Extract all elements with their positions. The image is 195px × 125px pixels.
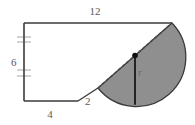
radius-label: r (138, 68, 142, 78)
dimension-label-top: 12 (90, 6, 101, 17)
figure-canvas (0, 0, 195, 125)
dimension-label-bottom: 4 (47, 109, 53, 120)
dimension-label-diagonal: 2 (85, 96, 91, 107)
geometry-figure: 12 6 4 2 r (0, 0, 195, 125)
dimension-label-left: 6 (11, 57, 17, 68)
center-point-dot-icon (132, 53, 138, 59)
shaded-semicircle (98, 23, 186, 107)
